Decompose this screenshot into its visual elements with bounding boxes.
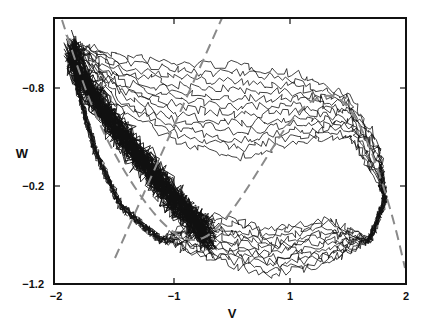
y-tick-label: −0.2 <box>22 180 44 192</box>
x-tick-label: 1 <box>287 290 293 302</box>
trajectory-lines <box>64 30 388 278</box>
x-tick-label: 2 <box>403 290 409 302</box>
x-tick-label: −1 <box>168 290 181 302</box>
x-tick-label: −2 <box>50 290 63 302</box>
y-tick-label: −1.2 <box>22 278 44 290</box>
y-axis-label: W <box>16 146 29 161</box>
x-axis-label: V <box>228 306 237 321</box>
y-tick-label: −0.8 <box>22 82 44 94</box>
phase-plane-chart: −2 −1 1 2 −0.8 −0.2 −1.2 V W <box>0 0 423 326</box>
